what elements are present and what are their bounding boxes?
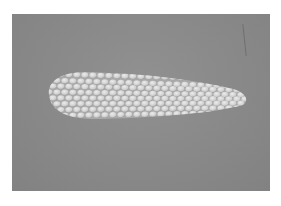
corn-photograph (12, 14, 270, 191)
corn-ear (43, 67, 249, 137)
surface-mark (242, 24, 246, 56)
